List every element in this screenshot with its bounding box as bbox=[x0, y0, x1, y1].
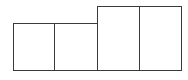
rectangle-4 bbox=[139, 6, 182, 71]
rectangle-1 bbox=[13, 23, 55, 71]
rectangle-3 bbox=[97, 6, 140, 71]
rectangle-2 bbox=[54, 23, 98, 71]
